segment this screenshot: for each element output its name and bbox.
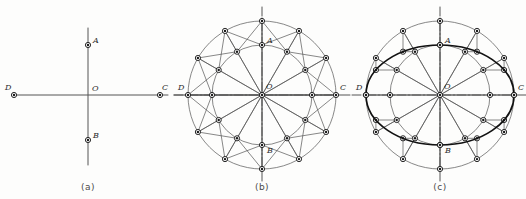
panel-c-outer-point-core: [439, 168, 441, 170]
panel-c-outer-point-core: [476, 158, 478, 160]
panel-c-inner-point-core: [395, 119, 397, 121]
panel-b-chord: [198, 95, 212, 132]
panel-b-outer-point-core: [187, 94, 189, 96]
panel-b-chord: [225, 145, 262, 159]
panel-c-label-o: O: [444, 82, 451, 91]
panel-b-inner-point-core: [286, 50, 288, 52]
panel-b-chord: [305, 95, 336, 120]
panel-a-label-c: C: [162, 83, 168, 92]
panel-b-chord: [188, 95, 219, 120]
panel-b-inner-point-core: [217, 119, 219, 121]
panel-c-inner-point-core: [489, 94, 491, 96]
panel-b-chord: [305, 70, 336, 95]
panel-a-point-a-core: [87, 44, 89, 46]
panel-c-outer-point-core: [402, 30, 404, 32]
panel-b-inner-point-core: [236, 137, 238, 139]
panel-b-outer-point-core: [261, 168, 263, 170]
panel-b-outer-point-core: [298, 158, 300, 160]
panel-c-inner-point-core: [482, 119, 484, 121]
panel-a-label-b: B: [92, 131, 99, 140]
panel-c-outer-point-core: [503, 57, 505, 59]
panel-b-inner-point-core: [236, 50, 238, 52]
panel-c-inner-point-core: [414, 50, 416, 52]
panel-b-chord: [299, 31, 305, 70]
panel-b-chord: [287, 52, 326, 58]
panel-b-chord: [198, 52, 237, 58]
panel-c-point-c-core: [513, 94, 515, 96]
panel-c-point-a-core: [439, 44, 441, 46]
panel-b-outer-point-core: [197, 57, 199, 59]
panel-a-label-o: O: [92, 84, 99, 93]
panel-b-chord: [237, 138, 262, 169]
panel-b-chord: [299, 120, 305, 159]
panel-b-chord: [237, 21, 262, 52]
panel-c-inner-point-core: [389, 94, 391, 96]
panel-b-inner-point-core: [304, 69, 306, 71]
panel-b-chord: [262, 21, 287, 52]
panel-b-inner-point-core: [261, 44, 263, 46]
panel-a-point-c-core: [159, 94, 161, 96]
panel-b-chord: [262, 138, 287, 169]
panel-b-inner-point-core: [217, 69, 219, 71]
panel-b-outer-point-core: [224, 158, 226, 160]
panel-b-chord: [188, 70, 219, 95]
panel-caption-b: (b): [255, 182, 269, 192]
panel-c-inner-point-core: [414, 137, 416, 139]
panel-a-label-a: A: [92, 36, 99, 45]
panel-b-outer-point-core: [325, 57, 327, 59]
panel-c-outer-point-core: [439, 20, 441, 22]
panel-b-label-o: O: [266, 82, 273, 91]
technical-drawing-canvas: ABCDOABCDOABCDO: [0, 0, 526, 199]
panel-c-outer-point-core: [375, 131, 377, 133]
panel-b-inner-point-core: [211, 94, 213, 96]
panel-a-point-d-core: [13, 94, 15, 96]
panel-b-label-d: D: [177, 83, 185, 92]
ellipse-construction-figure: ABCDOABCDOABCDO (a) (b) (c): [0, 0, 526, 199]
panel-c-outer-point-core: [402, 158, 404, 160]
panel-b-outer-point-core: [197, 131, 199, 133]
panel-c-inner-point-core: [464, 50, 466, 52]
panel-b-outer-point-core: [224, 30, 226, 32]
panel-c-label-b: B: [444, 146, 451, 155]
panel-c-label-a: A: [444, 36, 451, 45]
panel-b-chord: [198, 58, 212, 95]
panel-c-label-c: C: [518, 83, 524, 92]
panel-c-inner-point-core: [482, 69, 484, 71]
panel-b-chord: [312, 95, 326, 132]
panel-b-label-b: B: [266, 146, 273, 155]
panel-c-outer-point-core: [476, 30, 478, 32]
panel-b-chord: [287, 132, 326, 138]
panel-c-center-point-core: [439, 94, 441, 96]
panel-b-label-a: A: [266, 36, 273, 45]
panel-c-inner-point-core: [464, 137, 466, 139]
panel-c-inner-point-core: [395, 69, 397, 71]
panel-b-chord: [219, 31, 225, 70]
panel-c-outer-point-core: [503, 131, 505, 133]
panel-b-inner-point-core: [286, 137, 288, 139]
panel-b-chord: [198, 132, 237, 138]
panel-b-outer-point-core: [261, 20, 263, 22]
panel-b-chord: [312, 58, 326, 95]
panel-c-outer-point-core: [375, 57, 377, 59]
panel-b-label-c: C: [340, 83, 346, 92]
panel-caption-c: (c): [433, 182, 446, 192]
panel-b-outer-point-core: [325, 131, 327, 133]
panel-caption-a: (a): [81, 182, 95, 192]
panel-c-point-b-core: [439, 144, 441, 146]
panel-b-inner-point-core: [304, 119, 306, 121]
panel-b-outer-point-core: [298, 30, 300, 32]
panel-c-point-d-core: [365, 94, 367, 96]
panel-b-inner-point-core: [261, 144, 263, 146]
panel-b-inner-point-core: [311, 94, 313, 96]
panel-a-label-d: D: [4, 83, 12, 92]
panel-c-label-d: D: [355, 83, 363, 92]
panel-a-point-b-core: [87, 139, 89, 141]
panel-b-center-point-core: [261, 94, 263, 96]
panel-b-chord: [225, 31, 262, 45]
panel-b-chord: [219, 120, 225, 159]
panel-b-outer-point-core: [335, 94, 337, 96]
